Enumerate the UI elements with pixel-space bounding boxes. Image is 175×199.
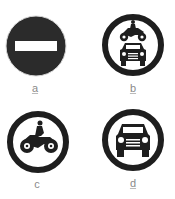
sign-b-label: b bbox=[123, 82, 143, 94]
sign-b-no-motor-vehicles-icon bbox=[101, 13, 165, 77]
sign-d-no-cars-icon bbox=[101, 108, 165, 172]
sign-d-label: d bbox=[123, 177, 143, 189]
sign-a-no-entry-icon bbox=[5, 15, 67, 77]
sign-a-label: a bbox=[25, 82, 45, 94]
sign-c-no-motorcycles-icon bbox=[6, 110, 70, 174]
sign-c-label: c bbox=[27, 178, 47, 190]
